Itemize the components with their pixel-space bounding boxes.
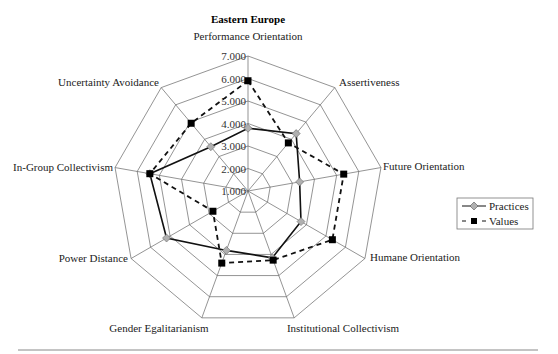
square-marker-icon [270,257,277,264]
grid-spoke [248,168,381,191]
tick-label: 6.000 [221,73,246,85]
axis-label: Gender Egalitarianism [109,322,209,334]
square-marker-icon [218,260,225,267]
grid-spoke [248,88,335,191]
tick-label: 3.000 [221,140,246,152]
grid-spoke [248,191,365,259]
axis-label: Power Distance [59,252,128,264]
diamond-marker-icon [296,178,304,186]
square-marker-icon [146,170,153,177]
legend-square-marker-icon [471,218,477,224]
square-marker-icon [329,236,336,243]
square-marker-icon [340,171,347,178]
axis-label: In-Group Collectivism [13,161,113,173]
axis-label: Humane Orientation [370,251,461,263]
radar-chart-svg: Eastern Europe 1.0002.0003.0004.0005.000… [0,0,558,354]
axis-label: Uncertainty Avoidance [58,76,159,88]
radar-chart: Eastern Europe 1.0002.0003.0004.0005.000… [0,0,558,354]
tick-label: 5.000 [221,95,246,107]
tick-label: 4.000 [221,118,246,130]
grid-spoke [131,191,248,259]
tick-label: 2.000 [221,163,246,175]
square-marker-icon [209,208,216,215]
legend: Practices Values [457,198,533,229]
diamond-marker-icon [163,234,171,242]
square-marker-icon [188,120,195,127]
tick-label: 7.000 [221,50,246,62]
axis-label: Institutional Collectivism [287,322,400,334]
axis-label: Performance Orientation [193,30,303,42]
radial-tick-labels: 1.0002.0003.0004.0005.0006.0007.000 [221,50,246,197]
square-marker-icon [245,77,252,84]
square-marker-icon [285,139,292,146]
chart-title: Eastern Europe [211,13,285,25]
tick-label: 1.000 [221,185,246,197]
legend-label-practices: Practices [489,200,529,212]
radar-grid [115,56,381,318]
series-line [150,81,344,263]
legend-label-values: Values [489,215,518,227]
axis-label: Future Orientation [383,160,465,172]
axis-label: Assertiveness [339,76,400,88]
